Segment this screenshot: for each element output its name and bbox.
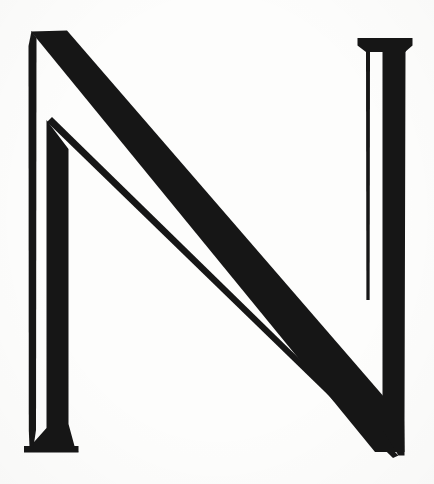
artboard: N	[0, 0, 434, 484]
left-foot-serif	[24, 446, 79, 453]
right-head-serif	[358, 38, 413, 52]
letter-n-glyph: N	[0, 0, 434, 484]
left-stem-hairline	[29, 31, 37, 447]
right-stem-hairline	[366, 44, 370, 300]
